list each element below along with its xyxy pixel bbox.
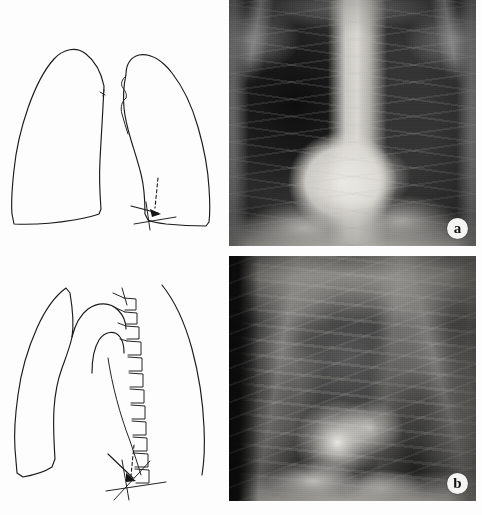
anterior-chest-wall-outline <box>15 288 73 477</box>
lateral-arrow-shaft <box>108 454 133 478</box>
vertebra-9 <box>132 421 146 435</box>
vertebra-6 <box>129 373 143 387</box>
vertebra-12 <box>135 469 149 483</box>
vertebra-8 <box>131 405 145 419</box>
vertebra-2 <box>125 312 137 324</box>
pa-chest-diagram-svg <box>0 0 228 250</box>
vertebra-3 <box>126 326 139 339</box>
ascending-aorta-outline <box>92 332 124 373</box>
lateral-chest-radiograph: b <box>229 256 476 501</box>
posterior-chest-wall-outline <box>162 285 204 475</box>
lateral-chest-diagram <box>0 255 228 515</box>
lateral-film-vignette <box>229 256 476 501</box>
panel-label-a: a <box>447 218 468 239</box>
right-lung-outline <box>12 49 104 224</box>
pa-film-vignette <box>229 0 476 246</box>
pa-chest-radiograph: a <box>229 0 476 246</box>
vertebral-column <box>113 288 149 483</box>
lateral-chest-diagram-svg <box>0 255 228 515</box>
pa-film <box>229 0 476 246</box>
vertebra-4 <box>127 341 141 355</box>
left-lung-outline <box>124 55 210 226</box>
vertebra-5 <box>128 357 142 371</box>
vertebra-10 <box>133 437 147 451</box>
lateral-film <box>229 256 476 501</box>
radiology-figure: a b <box>0 0 482 515</box>
pa-chest-diagram <box>0 0 228 250</box>
panel-label-b: b <box>447 473 468 494</box>
lateral-crosshatch-marks <box>106 460 166 500</box>
pa-arrow-head-icon <box>150 209 161 217</box>
posterior-fissure-line <box>108 358 141 475</box>
pa-dashed-pointer <box>155 178 158 208</box>
vertebra-7 <box>130 389 144 403</box>
